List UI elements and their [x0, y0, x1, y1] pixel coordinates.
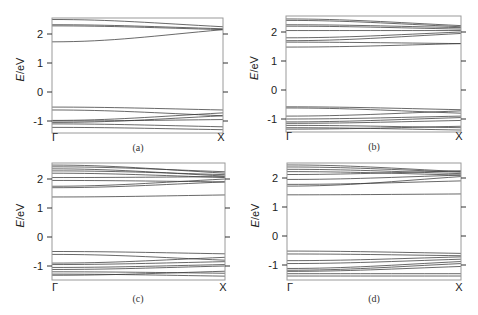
y-tick-label: 0	[271, 84, 277, 96]
panel-c: 210-1E/eVΓX(c)	[14, 163, 230, 305]
y-tick-label: 1	[37, 202, 43, 214]
band-line	[52, 116, 223, 123]
band-line	[286, 42, 461, 43]
band-line	[287, 251, 461, 253]
x-tick-label-x: X	[219, 281, 227, 293]
band-line	[52, 124, 223, 127]
x-tick-label-x: X	[455, 281, 463, 293]
band-line	[52, 254, 225, 260]
y-tick-label: -1	[268, 259, 278, 271]
x-tick-label-gamma: Γ	[287, 281, 293, 293]
x-tick-label-gamma: Γ	[286, 130, 292, 142]
y-tick-label: 2	[37, 28, 43, 40]
band-lines	[52, 20, 223, 130]
y-tick-label: 2	[271, 26, 277, 38]
y-axis-label: E/eV	[249, 203, 261, 228]
band-lines	[52, 165, 225, 276]
panel-a: 210-1E/eVΓX(a)	[14, 18, 228, 154]
y-tick-label: 0	[37, 231, 43, 243]
x-tick-label-gamma: Γ	[52, 131, 58, 143]
x-tick-label-x: X	[455, 130, 463, 142]
plot-frame	[52, 18, 223, 133]
band-line	[52, 252, 225, 254]
y-tick-label: 1	[37, 57, 43, 69]
y-axis-label: E/eV	[14, 57, 26, 82]
band-lines	[286, 19, 461, 130]
panel-d: 210-1E/eVΓX(d)	[249, 163, 466, 305]
band-line	[52, 195, 225, 197]
band-line	[286, 33, 461, 40]
panel-caption: (c)	[132, 293, 143, 305]
band-line	[52, 127, 223, 129]
y-tick-label: 2	[37, 173, 43, 185]
band-line	[52, 182, 225, 188]
y-tick-label: 2	[272, 172, 278, 184]
band-line	[52, 177, 225, 178]
y-tick-label: -1	[267, 113, 277, 125]
y-tick-label: 0	[272, 230, 278, 242]
band-line	[52, 30, 223, 42]
x-tick-label-gamma: Γ	[52, 281, 58, 293]
band-line	[52, 110, 223, 116]
band-line	[287, 266, 461, 271]
panel-b: 210-1E/eVΓX(b)	[248, 16, 466, 153]
band-lines	[287, 165, 461, 276]
panel-caption: (a)	[132, 142, 143, 154]
y-tick-label: 0	[37, 86, 43, 98]
y-tick-label: 1	[271, 55, 277, 67]
band-structure-figure: 210-1E/eVΓX(a)210-1E/eVΓX(b)210-1E/eVΓX(…	[0, 0, 478, 315]
band-line	[52, 107, 223, 110]
y-axis-label: E/eV	[248, 55, 260, 80]
band-line	[287, 194, 461, 195]
y-tick-label: -1	[33, 115, 43, 127]
panel-caption: (d)	[368, 293, 380, 305]
band-line	[286, 44, 461, 47]
panel-caption: (b)	[368, 141, 380, 153]
y-tick-label: 1	[272, 201, 278, 213]
band-line	[286, 111, 461, 116]
x-tick-label-x: X	[217, 131, 225, 143]
band-line	[287, 254, 461, 256]
y-axis-label: E/eV	[14, 203, 26, 228]
y-tick-label: -1	[33, 260, 43, 272]
